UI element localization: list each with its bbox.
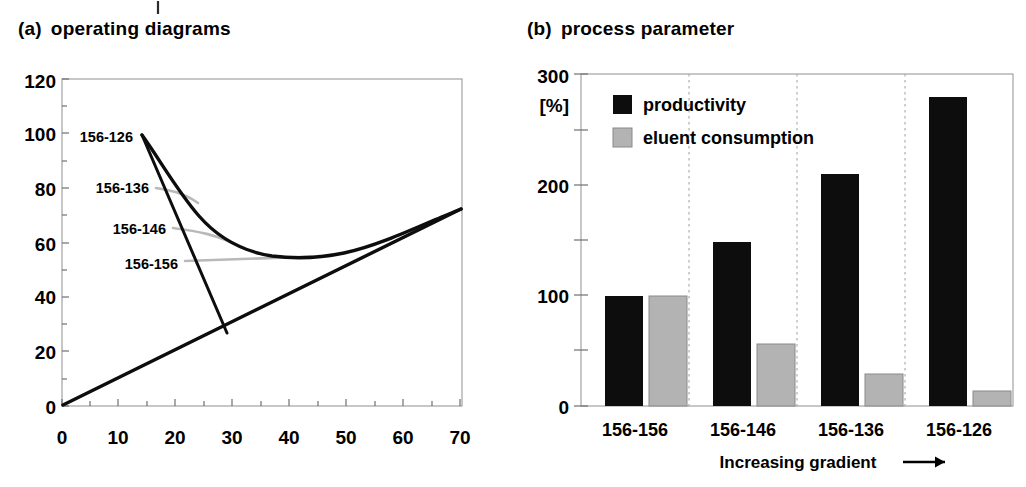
curve-label-156-146: 156-146: [113, 221, 166, 237]
legend-label-eluent: eluent consumption: [643, 128, 814, 148]
panel-b-ytick-200: 200: [537, 176, 569, 197]
bar-productivity-156-156: [605, 296, 643, 406]
panel-a-xtick-20: 20: [164, 427, 185, 448]
diagonal-operating-line: [63, 209, 461, 405]
panel-a-ytick-40: 40: [35, 287, 56, 308]
panel-a-tag: (a): [18, 18, 42, 39]
panel-a-y-ticks: [62, 79, 69, 406]
panel-a-xtick-0: 0: [57, 427, 68, 448]
panel-b-cat-156-126: 156-126: [926, 420, 992, 440]
curve-label-156-126: 156-126: [80, 129, 133, 145]
panel-a-ytick-100: 100: [24, 124, 56, 145]
panel-a-xtick-30: 30: [221, 427, 242, 448]
increasing-gradient-arrow-icon: [903, 457, 945, 468]
panel-operating-diagrams: (a)operating diagrams: [0, 0, 513, 487]
panel-a-ytick-0: 0: [45, 397, 56, 418]
bar-productivity-156-136: [821, 174, 859, 406]
panel-a-title-text: operating diagrams: [51, 18, 231, 39]
panel-a-xtick-70: 70: [449, 427, 470, 448]
legend-label-productivity: productivity: [643, 95, 746, 115]
panel-b-ytick-0: 0: [558, 397, 569, 418]
panel-a-ytick-120: 120: [24, 71, 56, 92]
panel-b-legend: productivity eluent consumption: [613, 95, 814, 148]
panel-a-x-ticks: [62, 399, 460, 406]
panel-a-xtick-40: 40: [278, 427, 299, 448]
panel-b-cat-156-146: 156-146: [710, 420, 776, 440]
bar-eluent-156-136: [865, 374, 903, 406]
panel-a-title: (a)operating diagrams: [18, 18, 231, 40]
panel-b-title: (b)process parameter: [527, 18, 734, 40]
bar-eluent-156-126: [973, 391, 1011, 406]
bar-eluent-156-156: [649, 296, 687, 406]
panel-b-ytick-300: 300: [537, 66, 569, 87]
tie-line-156-136: [156, 188, 198, 203]
panel-a-ytick-60: 60: [35, 234, 56, 255]
panel-b-title-text: process parameter: [561, 18, 734, 39]
bar-eluent-156-146: [757, 344, 795, 406]
panel-a-xtick-10: 10: [107, 427, 128, 448]
panel-a-ytick-20: 20: [35, 342, 56, 363]
legend-swatch-eluent: [613, 128, 632, 147]
panel-b-cat-156-136: 156-136: [818, 420, 884, 440]
bar-productivity-156-126: [929, 97, 967, 406]
panel-b-x-caption: Increasing gradient: [720, 453, 877, 472]
panel-b-ytick-100: 100: [537, 286, 569, 307]
panel-b-y-unit: [%]: [539, 95, 569, 116]
panel-b-chart: 300 [%] 200 100 0: [513, 0, 1026, 487]
bar-productivity-156-146: [713, 242, 751, 406]
figure-root: (a)operating diagrams: [0, 0, 1026, 487]
panel-a-xtick-50: 50: [335, 427, 356, 448]
panel-a-xtick-60: 60: [392, 427, 413, 448]
panel-b-tag: (b): [527, 18, 552, 39]
panel-b-cat-156-156: 156-156: [602, 420, 668, 440]
panel-process-parameter: (b)process parameter 300 [%] 200 100 0: [513, 0, 1026, 487]
separation-envelope-curve: [142, 135, 461, 258]
legend-swatch-productivity: [613, 95, 632, 114]
curve-label-156-136: 156-136: [96, 180, 149, 196]
panel-a-ytick-80: 80: [35, 179, 56, 200]
curve-label-156-156: 156-156: [125, 256, 178, 272]
panel-a-chart: 120 100 80 60 40 20 0: [0, 0, 513, 487]
